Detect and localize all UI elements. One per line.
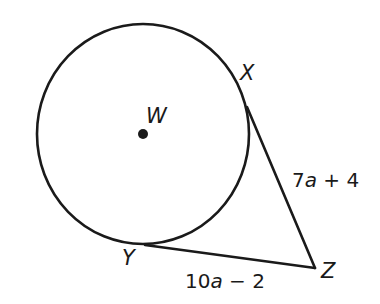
tangent-segment-yz (145, 245, 315, 268)
label-yz-length: 10a − 2 (185, 269, 265, 293)
xz-coef: 7 (292, 168, 305, 192)
center-point-w (138, 129, 148, 139)
geometry-diagram: W X Y Z 7a + 4 10a − 2 (0, 0, 380, 304)
yz-var: a (210, 269, 222, 293)
label-y: Y (122, 246, 137, 270)
yz-const: − 2 (223, 269, 265, 293)
label-z: Z (320, 259, 336, 283)
yz-coef: 10 (185, 269, 210, 293)
label-x: X (239, 61, 255, 85)
label-xz-length: 7a + 4 (292, 168, 359, 192)
xz-var: a (305, 168, 317, 192)
label-w: W (146, 104, 168, 128)
xz-const: + 4 (317, 168, 359, 192)
